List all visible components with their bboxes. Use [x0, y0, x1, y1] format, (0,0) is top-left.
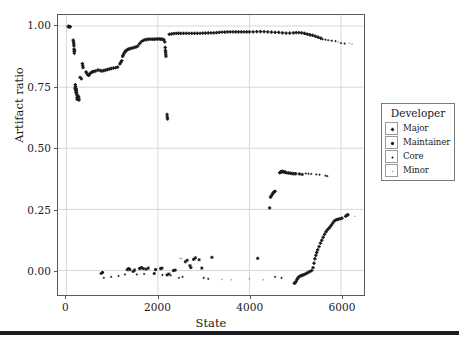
legend-entry-maintainer[interactable]: Maintainer — [382, 135, 454, 149]
y-tick-mark — [54, 25, 57, 26]
x-tick-mark — [158, 296, 159, 299]
x-axis-title: State — [57, 316, 365, 330]
figure: 0.000.250.500.751.000200040006000 Artifa… — [0, 0, 459, 350]
series-maintainer — [73, 49, 304, 277]
bottom-rule-divider — [0, 331, 459, 335]
x-tick-label: 6000 — [328, 301, 355, 313]
y-tick-mark — [54, 271, 57, 272]
y-tick-mark — [54, 210, 57, 211]
legend-entry-label: Minor — [403, 165, 429, 175]
y-tick-label: 1.00 — [14, 19, 51, 31]
series-minor — [179, 40, 355, 281]
y-tick-mark — [54, 148, 57, 149]
y-tick-label: 0.25 — [14, 204, 51, 216]
plus-small-icon — [385, 150, 398, 163]
legend-entry-core[interactable]: Core — [382, 149, 454, 163]
x-tick-mark — [342, 296, 343, 299]
y-tick-mark — [54, 87, 57, 88]
plus-bold-icon — [385, 122, 398, 135]
x-tick-label: 4000 — [236, 301, 263, 313]
legend-entry-minor[interactable]: Minor — [382, 163, 454, 177]
plot-area — [57, 14, 365, 296]
asterisk-icon — [385, 136, 398, 149]
legend-entry-label: Core — [403, 151, 424, 161]
legend-entry-major[interactable]: Major — [382, 121, 454, 135]
legend-entry-label: Major — [403, 123, 428, 133]
dot-faint-icon — [385, 164, 398, 177]
x-tick-mark — [65, 296, 66, 299]
legend-title: Developer — [382, 106, 454, 121]
x-tick-label: 0 — [62, 301, 69, 313]
legend-entries: MajorMaintainerCoreMinor — [382, 121, 454, 177]
x-tick-mark — [250, 296, 251, 299]
legend: Developer MajorMaintainerCoreMinor — [381, 103, 455, 181]
y-tick-label: 0.00 — [14, 265, 51, 277]
data-points-layer — [58, 15, 364, 295]
legend-entry-label: Maintainer — [403, 137, 450, 147]
series-core — [103, 33, 346, 280]
y-axis-title: Artifact ratio — [12, 40, 26, 170]
series-major — [66, 25, 349, 285]
x-tick-label: 2000 — [144, 301, 171, 313]
